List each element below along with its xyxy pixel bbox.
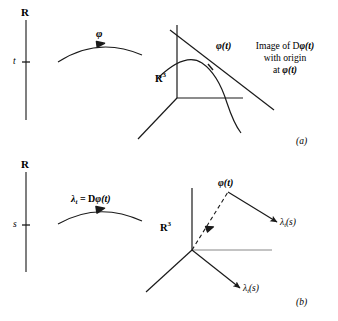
panel-a-caption-line2: with origin (237, 52, 333, 64)
figure-root: R t φ R3 φ(t) Image of Dφ(t) with origin… (0, 0, 338, 321)
panel-b-domain-point-label: s (13, 219, 17, 230)
panel-b-graphics (22, 172, 277, 292)
panel-b-vector-right-argument: (s) (286, 217, 296, 227)
panel-b-target-space-exponent: 3 (168, 220, 172, 228)
panel-a-caption-line1: Image of Dφ(t) (237, 40, 333, 52)
panel-a-caption: Image of Dφ(t) with origin at φ(t) (237, 40, 333, 76)
panel-b-dashed-arrowhead (206, 227, 214, 233)
panel-b-vector-right-subscript: t (284, 221, 286, 228)
panel-a-point-label: φ(t) (216, 40, 231, 51)
panel-b-vector-right (228, 192, 277, 222)
panel-b-map-phi: φ(t) (95, 193, 110, 204)
panel-a-caption-line1-math: φ(t) (300, 40, 315, 51)
panel-a-map-arrow-label: φ (96, 27, 102, 39)
panel-a-target-space-letter: R (155, 73, 163, 84)
panel-b-vector-down (192, 250, 240, 288)
panel-b-map-arrow-label: λt = Dφ(t) (71, 193, 111, 205)
panel-b-point-label: φ(t) (218, 177, 233, 188)
panel-b-map-equals: = D (77, 193, 95, 204)
panel-a-axis-oblique (138, 98, 177, 139)
panel-a-caption-line3-prefix: at (273, 64, 282, 75)
panel-a-caption-line1-prefix: Image of D (256, 40, 300, 51)
panel-a-map-arrowhead (97, 42, 105, 48)
panel-a-label: (a) (296, 136, 307, 147)
panel-b-map-arc (58, 212, 142, 224)
panel-a-domain-point-label: t (13, 56, 16, 67)
panel-a-caption-line3: at φ(t) (237, 64, 333, 76)
panel-a-graphics (22, 20, 274, 139)
panel-b-vector-down-subscript: t (247, 287, 249, 294)
panel-a-target-space-label: R3 (155, 72, 166, 84)
panel-a-target-space-exponent: 3 (163, 71, 167, 79)
panel-a-domain-top-label: R (21, 6, 29, 18)
panel-b-domain-top-label: R (21, 158, 29, 170)
panel-b-target-space-letter: R (160, 222, 168, 233)
panel-b-label: (b) (296, 297, 307, 308)
panel-b-vector-down-argument: (s) (249, 283, 259, 293)
panel-b-target-space-label: R3 (160, 221, 171, 233)
panel-a-caption-line3-math: φ(t) (282, 64, 297, 75)
panel-a-map-arc (58, 47, 142, 62)
panel-b-vector-right-label: λt(s) (280, 217, 296, 228)
panel-a-curve (158, 60, 241, 133)
panel-b-vector-down-label: λt(s) (243, 283, 259, 294)
panel-b-dashed-vector (192, 192, 228, 250)
panel-b-axis-oblique-left (146, 250, 192, 292)
